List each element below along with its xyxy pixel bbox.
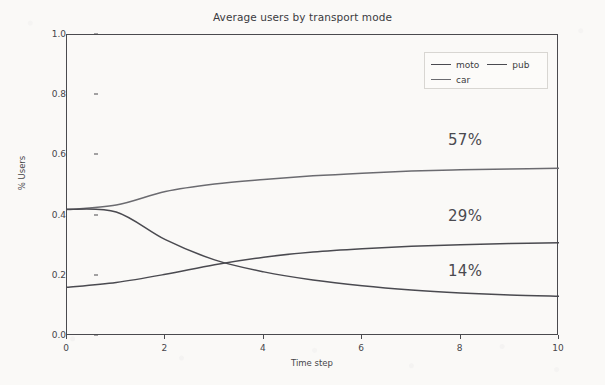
x-tick-mark: [558, 335, 559, 339]
y-axis-label: % Users: [17, 143, 27, 203]
x-tick-mark: [263, 335, 264, 339]
x-tick-mark: [66, 335, 67, 339]
legend-entry-pub[interactable]: pub: [487, 60, 529, 70]
x-tick-label: 2: [162, 343, 168, 353]
x-tick-label: 8: [457, 343, 463, 353]
legend-line-icon-moto: [431, 64, 451, 65]
y-axis-ticks: 0.00.20.40.60.81.0: [32, 34, 66, 335]
annotation-moto: 29%: [448, 207, 482, 225]
legend-label-car: car: [456, 75, 470, 85]
annotation-car: 57%: [448, 131, 482, 149]
legend-row-1: moto pub: [431, 57, 541, 72]
y-tick-label: 0.8: [40, 89, 66, 99]
chart-legend: moto pub car: [424, 52, 548, 89]
annotation-pub: 14%: [448, 262, 482, 280]
x-axis-label: Time step: [66, 358, 558, 368]
x-tick-mark: [361, 335, 362, 339]
x-tick-label: 6: [358, 343, 364, 353]
x-tick-mark: [460, 335, 461, 339]
legend-label-pub: pub: [512, 60, 529, 70]
legend-label-moto: moto: [456, 60, 479, 70]
legend-line-icon-car: [431, 79, 451, 80]
x-tick-mark: [164, 335, 165, 339]
chart-figure: Average users by transport mode % Users …: [0, 0, 605, 385]
legend-entry-car[interactable]: car: [431, 75, 470, 85]
line-series-car: [67, 168, 559, 209]
x-axis-ticks: 0246810: [66, 335, 558, 359]
x-tick-label: 0: [63, 343, 69, 353]
y-tick-label: 0.2: [40, 270, 66, 280]
legend-line-icon-pub: [487, 64, 507, 65]
chart-title: Average users by transport mode: [0, 11, 605, 23]
legend-row-2: car: [431, 72, 541, 87]
y-tick-label: 0.4: [40, 210, 66, 220]
y-tick-label: 0.0: [40, 330, 66, 340]
x-tick-label: 10: [552, 343, 563, 353]
x-tick-label: 4: [260, 343, 266, 353]
y-tick-label: 0.6: [40, 149, 66, 159]
y-tick-label: 1.0: [40, 29, 66, 39]
legend-entry-moto[interactable]: moto: [431, 60, 479, 70]
